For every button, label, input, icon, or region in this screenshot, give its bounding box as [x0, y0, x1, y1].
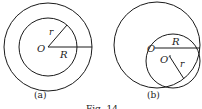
- diagram-b: [114, 2, 200, 88]
- figure-canvas: O r R (a) O R O′ r (b) Fig. 14: [0, 0, 202, 109]
- outer-radius-label-b: R: [171, 36, 180, 47]
- outer-radius-label-a: R: [59, 49, 68, 60]
- figure-caption: Fig. 14: [86, 104, 118, 109]
- inner-radius-label-b: r: [180, 59, 185, 69]
- caption-a: (a): [34, 90, 46, 100]
- inner-center-label-b: O′: [160, 54, 171, 65]
- inner-radius-label-a: r: [49, 27, 54, 37]
- outer-circle-b: [114, 2, 200, 88]
- center-label-a: O: [37, 43, 45, 54]
- caption-b: (b): [147, 90, 160, 100]
- diagram-a: [4, 3, 92, 91]
- outer-center-label-b: O: [147, 43, 155, 54]
